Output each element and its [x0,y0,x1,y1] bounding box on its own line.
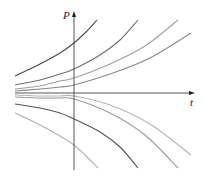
curve-upper-2 [15,20,138,85]
curve-lower-4 [15,95,191,155]
p-axis-arrow-icon [72,11,76,17]
solution-curves-diagram [0,0,205,185]
p-axis-label: P [63,10,70,21]
curve-family [15,20,191,168]
curve-lower-1 [15,113,98,168]
t-axis-arrow-icon [189,91,195,95]
curve-upper-1 [15,20,97,76]
curve-upper-4 [15,33,191,91]
curve-lower-2 [15,104,138,168]
t-axis-label: t [190,97,193,108]
